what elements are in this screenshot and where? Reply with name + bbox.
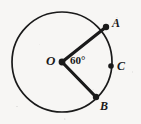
label-center-o: O [46,54,55,67]
label-point-c: C [117,60,125,72]
geometry-figure: O A B C 60° [0,0,141,124]
point-dot-b [93,94,99,100]
center-point-dot-o [59,59,66,66]
point-dot-c [108,63,114,69]
point-dot-a [103,24,109,30]
label-central-angle: 60° [70,55,85,66]
label-point-a: A [112,17,120,29]
radius-segment-ob [62,62,96,97]
label-point-b: B [100,100,108,112]
